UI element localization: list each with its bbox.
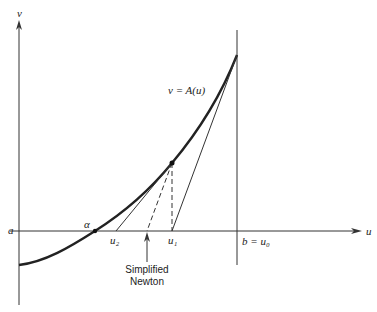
point-u1-on-curve xyxy=(170,161,175,166)
u2-label: u₂ xyxy=(110,235,119,246)
a-label: a xyxy=(8,225,14,236)
alpha-label: α xyxy=(84,219,90,230)
u1-label: u₁ xyxy=(168,235,177,246)
simplified-newton-line xyxy=(147,163,172,231)
point-alpha xyxy=(93,229,97,233)
y-axis-label: v xyxy=(17,8,22,19)
curve-label: v = A(u) xyxy=(168,85,205,96)
simplified-label-line1: Simplified xyxy=(117,264,177,276)
simplified-newton-label: Simplified Newton xyxy=(117,264,177,288)
simplified-label-line2: Newton xyxy=(117,276,177,288)
newton-line-2 xyxy=(116,163,172,231)
x-axis-label: u xyxy=(366,226,372,237)
newton-line-1 xyxy=(172,55,237,231)
b-u0-label: b = u₀ xyxy=(242,236,270,247)
diagram-canvas xyxy=(0,0,377,312)
